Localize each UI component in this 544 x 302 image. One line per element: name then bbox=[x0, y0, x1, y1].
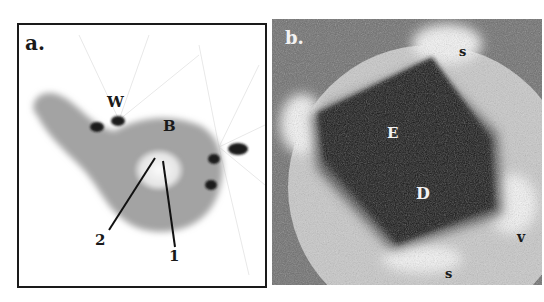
dark-spot bbox=[205, 180, 217, 190]
label-b: B bbox=[163, 119, 176, 134]
panel-a: a. W B 2 1 bbox=[17, 23, 267, 288]
label-1: 1 bbox=[169, 249, 179, 264]
label-s-top: s bbox=[459, 45, 466, 58]
dark-spot bbox=[90, 122, 104, 132]
label-d: D bbox=[416, 186, 430, 202]
bright-core bbox=[133, 148, 185, 192]
dark-spot bbox=[111, 116, 125, 126]
gray-blob bbox=[33, 93, 222, 232]
label-2: 2 bbox=[95, 233, 105, 248]
dark-spot bbox=[228, 143, 248, 155]
label-w: W bbox=[107, 95, 124, 110]
label-e: E bbox=[387, 126, 398, 141]
panel-b-label: b. bbox=[285, 29, 304, 47]
panel-b-image bbox=[272, 19, 542, 285]
noise-overlay bbox=[272, 19, 542, 285]
dark-spot bbox=[208, 154, 220, 164]
label-v: v bbox=[517, 230, 525, 244]
panel-b: b. s E D v s bbox=[272, 19, 542, 285]
panel-a-image bbox=[19, 25, 265, 286]
panel-a-label: a. bbox=[25, 33, 45, 53]
label-s-bottom: s bbox=[445, 267, 452, 280]
